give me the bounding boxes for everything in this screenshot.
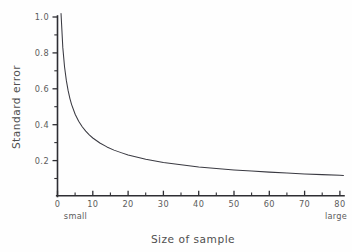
x-axis-tick-labels: 0 10 20 30 40 50 60 70 80 — [55, 199, 346, 209]
annotation-large: large — [325, 211, 347, 221]
x-tick-label: 60 — [264, 199, 275, 209]
chart-background — [0, 0, 352, 252]
x-tick-label: 80 — [334, 199, 345, 209]
x-tick-label: 10 — [87, 199, 98, 209]
x-tick-label: 40 — [193, 199, 204, 209]
y-axis-title: Standard error — [10, 65, 22, 149]
x-tick-label: 30 — [158, 199, 169, 209]
y-tick-label: 0.2 — [35, 156, 49, 166]
y-tick-label: 1.0 — [35, 12, 49, 22]
x-axis-title: Size of sample — [151, 233, 235, 245]
y-tick-label: 0.4 — [35, 120, 49, 130]
x-tick-label: 20 — [122, 199, 133, 209]
annotation-small: small — [64, 211, 87, 221]
y-tick-label: 0.8 — [35, 48, 49, 58]
chart-figure: 1.0 0.8 0.6 0.4 0.2 Standard error — [0, 0, 352, 252]
standard-error-line-chart: 1.0 0.8 0.6 0.4 0.2 Standard error — [0, 0, 352, 252]
y-tick-label: 0.6 — [35, 84, 49, 94]
x-tick-label: 0 — [55, 199, 61, 209]
x-tick-label: 50 — [228, 199, 239, 209]
x-tick-label: 70 — [299, 199, 310, 209]
